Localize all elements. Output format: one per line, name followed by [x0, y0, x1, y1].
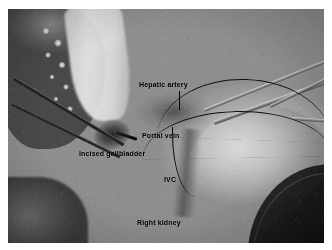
annotation-label-right-kidney: Right kidney	[137, 219, 181, 226]
annotation-label-hepatic-artery: Hepatic artery	[139, 81, 188, 88]
annotation-label-portal-vein: Portal vein	[142, 132, 179, 139]
surgical-photograph: Hepatic artery Portal vein Incised gallb…	[8, 9, 324, 243]
film-grain-overlay	[8, 9, 324, 243]
leader-line-hepatic-artery	[179, 91, 180, 110]
annotation-label-ivc: IVC	[164, 176, 176, 183]
annotation-label-incised-gallbladder: Incised gallbladder	[79, 150, 145, 157]
figure-root: Hepatic artery Portal vein Incised gallb…	[0, 0, 332, 250]
